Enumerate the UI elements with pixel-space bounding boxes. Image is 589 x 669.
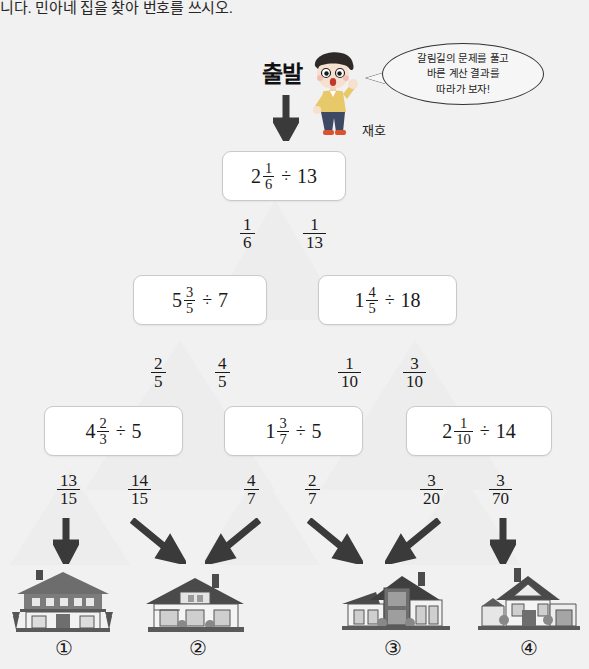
arrow-to-house-1-icon (53, 518, 79, 564)
fraction: 4 5 (366, 285, 377, 315)
fraction: 3 5 (184, 285, 195, 315)
branch-label-1-1: 1 13 (303, 216, 326, 251)
start-label: 출발 (262, 55, 302, 89)
mixed-whole: 2 (251, 166, 261, 186)
bubble-line-3: 따라가 보자! (436, 82, 489, 97)
arrow-to-house-2-right-icon (205, 518, 261, 564)
branch-label-3-1: 14 15 (128, 472, 151, 507)
bubble-line-1: 갈림길의 문제를 풀고 (417, 51, 508, 66)
arrow-to-house-4-icon (490, 518, 516, 564)
fraction: 1 10 (454, 416, 473, 446)
instruction-text: 니다. 민아네 집을 찾아 번호를 쓰시오. (0, 0, 320, 18)
branch-label-2-1: 4 5 (215, 355, 230, 390)
house-3-illustration[interactable] (340, 570, 452, 636)
divisor: 13 (297, 166, 317, 186)
branch-label-2-3: 3 10 (403, 355, 426, 390)
house-4-illustration[interactable] (476, 566, 582, 636)
math-box-row1-0[interactable]: 2 1 6 ÷ 13 (222, 151, 346, 201)
speech-bubble: 갈림길의 문제를 풀고 바른 계산 결과를 따라가 보자! (382, 43, 544, 105)
branch-label-2-0: 2 5 (151, 355, 166, 390)
house-2-illustration[interactable] (140, 570, 250, 636)
house-2-number: ② (189, 636, 207, 660)
branch-label-1-0: 1 6 (240, 216, 255, 251)
house-3-number: ③ (384, 636, 402, 660)
operator: ÷ (281, 167, 291, 185)
house-1-number: ① (55, 636, 73, 660)
house-1-illustration[interactable] (8, 568, 118, 636)
bubble-line-2: 바른 계산 결과를 (427, 66, 499, 81)
branch-label-3-4: 3 20 (420, 472, 443, 507)
math-box-row2-1[interactable]: 1 4 5 ÷ 18 (318, 275, 457, 325)
house-4-number: ④ (520, 636, 538, 660)
branch-label-2-2: 1 10 (338, 355, 361, 390)
start-arrow-icon (273, 95, 299, 141)
math-box-row3-0[interactable]: 4 2 3 ÷ 5 (44, 406, 183, 456)
boy-character-illustration (301, 44, 365, 136)
arrow-to-house-3-right-icon (385, 518, 441, 564)
arrow-to-house-3-left-icon (307, 518, 363, 564)
character-name-label: 재호 (362, 120, 386, 139)
math-box-row3-1[interactable]: 1 3 7 ÷ 5 (224, 406, 363, 456)
branch-label-3-5: 3 70 (489, 472, 512, 507)
arrow-to-house-2-left-icon (130, 518, 186, 564)
fraction: 3 7 (277, 416, 288, 446)
math-box-row3-2[interactable]: 2 1 10 ÷ 14 (406, 406, 552, 456)
math-box-row2-0[interactable]: 5 3 5 ÷ 7 (133, 275, 267, 325)
branch-label-3-3: 2 7 (305, 472, 320, 507)
branch-label-3-0: 13 15 (57, 472, 80, 507)
branch-label-3-2: 4 7 (244, 472, 259, 507)
fraction: 2 3 (97, 416, 108, 446)
fraction: 1 6 (263, 161, 274, 191)
